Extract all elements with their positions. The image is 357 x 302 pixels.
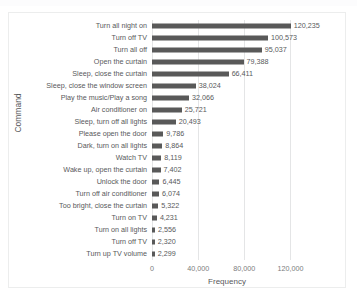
bar[interactable] bbox=[152, 240, 155, 245]
x-tick-label: 40,000 bbox=[187, 264, 209, 273]
bar-row[interactable]: Wake up, open the curtain7,402 bbox=[152, 164, 302, 176]
bar-row[interactable]: Turn up TV volume2,299 bbox=[152, 248, 302, 260]
category-label: Watch TV bbox=[116, 154, 147, 161]
bar[interactable] bbox=[152, 96, 189, 101]
bar-value-label: 32,066 bbox=[192, 94, 214, 101]
category-label: Turn off TV bbox=[112, 238, 147, 245]
category-label: Turn off TV bbox=[112, 34, 147, 41]
bar-chart-figure: Command Turn all night on120,235Turn off… bbox=[8, 12, 346, 288]
bar[interactable] bbox=[152, 132, 163, 137]
bar-value-label: 2,556 bbox=[158, 226, 176, 233]
bar-row[interactable]: Too bright, close the curtain5,322 bbox=[152, 200, 302, 212]
bar[interactable] bbox=[152, 156, 161, 161]
bar[interactable] bbox=[152, 72, 229, 77]
category-label: Air conditioner on bbox=[91, 106, 147, 113]
bar-value-label: 66,411 bbox=[232, 70, 253, 77]
category-label: Turn on all lights bbox=[95, 226, 147, 233]
bar-value-label: 100,573 bbox=[271, 34, 297, 41]
bar-value-label: 2,299 bbox=[158, 250, 176, 257]
category-label: Turn all night on bbox=[96, 22, 147, 29]
top-edge-artifact bbox=[0, 0, 357, 6]
bar[interactable] bbox=[152, 24, 291, 29]
bar-value-label: 8,119 bbox=[164, 154, 181, 161]
bar-row[interactable]: Sleep, close the window screen38,024 bbox=[152, 80, 302, 92]
x-tick-label: 80,000 bbox=[233, 264, 255, 273]
category-label: Wake up, open the curtain bbox=[63, 166, 147, 173]
category-label: Open the curtain bbox=[94, 58, 147, 65]
bar-row[interactable]: Play the music/Play a song32,066 bbox=[152, 92, 302, 104]
bar-value-label: 79,388 bbox=[247, 58, 269, 65]
bar-row[interactable]: Turn off air conditioner6,074 bbox=[152, 188, 302, 200]
category-label: Sleep, close the window screen bbox=[46, 82, 147, 89]
bar-row[interactable]: Open the curtain79,388 bbox=[152, 56, 302, 68]
bar-value-label: 8,864 bbox=[165, 142, 183, 149]
category-label: Play the music/Play a song bbox=[61, 94, 147, 101]
category-label: Turn off air conditioner bbox=[75, 190, 147, 197]
bar-row[interactable]: Sleep, close the curtain66,411 bbox=[152, 68, 302, 80]
bar-value-label: 9,786 bbox=[166, 130, 184, 137]
category-label: Sleep, close the curtain bbox=[72, 70, 147, 77]
bar[interactable] bbox=[152, 180, 159, 185]
bar[interactable] bbox=[152, 168, 161, 173]
category-label: Too bright, close the curtain bbox=[59, 202, 147, 209]
bar-row[interactable]: Air conditioner on25,721 bbox=[152, 104, 302, 116]
bar-row[interactable]: Sleep, turn off all lights20,493 bbox=[152, 116, 302, 128]
bar-row[interactable]: Turn off TV100,573 bbox=[152, 32, 302, 44]
x-tick-label: 120,000 bbox=[277, 264, 303, 273]
plot-area: Turn all night on120,235Turn off TV100,5… bbox=[152, 20, 302, 260]
bar-row[interactable]: Turn on all lights2,556 bbox=[152, 224, 302, 236]
bar[interactable] bbox=[152, 216, 157, 221]
bar-row[interactable]: Dark, turn on all lights8,864 bbox=[152, 140, 302, 152]
category-label: Sleep, turn off all lights bbox=[74, 118, 147, 125]
bar[interactable] bbox=[152, 144, 162, 149]
bar-value-label: 4,231 bbox=[160, 214, 178, 221]
bar-value-label: 120,235 bbox=[294, 22, 320, 29]
bar[interactable] bbox=[152, 108, 182, 113]
bar[interactable] bbox=[152, 192, 159, 197]
bar-value-label: 5,322 bbox=[161, 202, 179, 209]
category-label: Dark, turn on all lights bbox=[77, 142, 147, 149]
bar-row[interactable]: Turn all night on120,235 bbox=[152, 20, 302, 32]
bar[interactable] bbox=[152, 84, 196, 89]
bar-row[interactable]: Watch TV8,119 bbox=[152, 152, 302, 164]
category-label: Turn all off bbox=[113, 46, 147, 53]
bar-value-label: 20,493 bbox=[179, 118, 201, 125]
category-label: Unlock the door bbox=[97, 178, 147, 185]
category-label: Turn up TV volume bbox=[86, 250, 147, 257]
bar-row[interactable]: Turn on TV4,231 bbox=[152, 212, 302, 224]
bar[interactable] bbox=[152, 228, 155, 233]
bar[interactable] bbox=[152, 48, 262, 53]
category-label: Turn on TV bbox=[111, 214, 147, 221]
bar-value-label: 6,074 bbox=[162, 190, 180, 197]
bar[interactable] bbox=[152, 36, 268, 41]
bar-row[interactable]: Turn all off95,037 bbox=[152, 44, 302, 56]
bar[interactable] bbox=[152, 120, 176, 125]
bar-row[interactable]: Turn off TV2,320 bbox=[152, 236, 302, 248]
bar[interactable] bbox=[152, 60, 244, 65]
bar-value-label: 25,721 bbox=[185, 106, 207, 113]
x-axis-tick-labels: 040,00080,000120,000 bbox=[152, 264, 302, 276]
bar[interactable] bbox=[152, 252, 155, 257]
x-axis-title: Frequency bbox=[152, 277, 302, 286]
category-label: Please open the door bbox=[79, 130, 147, 137]
bar-value-label: 2,320 bbox=[158, 238, 176, 245]
y-axis-title: Command bbox=[13, 68, 23, 158]
bar-value-label: 6,445 bbox=[162, 178, 180, 185]
bar-value-label: 7,402 bbox=[164, 166, 182, 173]
bar-row[interactable]: Unlock the door6,445 bbox=[152, 176, 302, 188]
bar-value-label: 95,037 bbox=[265, 46, 287, 53]
bar[interactable] bbox=[152, 204, 158, 209]
bar-value-label: 38,024 bbox=[199, 82, 221, 89]
x-tick-label: 0 bbox=[150, 264, 154, 273]
bar-row[interactable]: Please open the door9,786 bbox=[152, 128, 302, 140]
